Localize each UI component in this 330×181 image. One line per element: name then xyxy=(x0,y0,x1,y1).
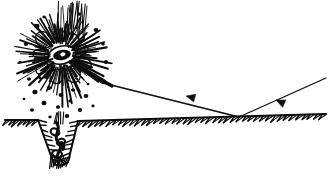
crater-hatch xyxy=(40,125,46,126)
debris-dot xyxy=(78,108,82,112)
debris-dot xyxy=(32,90,37,95)
debris-dot xyxy=(42,16,45,19)
debris-dot xyxy=(30,108,34,112)
impact-explosion-illustration xyxy=(0,0,330,181)
debris-dot xyxy=(68,99,72,102)
debris-dot xyxy=(101,42,105,45)
debris-dot xyxy=(42,101,47,105)
debris-dot xyxy=(104,60,108,64)
debris-dot xyxy=(56,105,60,109)
debris-dot xyxy=(24,42,28,46)
debris-dot xyxy=(71,88,75,92)
debris-dot xyxy=(84,94,89,98)
debris-dot xyxy=(34,24,39,29)
debris-dot xyxy=(87,83,90,86)
debris-dot xyxy=(91,105,94,108)
debris-dot xyxy=(48,116,51,119)
debris-dot xyxy=(19,61,22,64)
figure-canvas xyxy=(0,0,330,181)
explosion-ray xyxy=(29,56,45,57)
debris-dot xyxy=(27,77,31,81)
debris-dot xyxy=(47,86,51,90)
debris-dot xyxy=(77,12,81,16)
crater-hatch xyxy=(45,140,52,141)
debris-dot xyxy=(94,28,99,32)
debris-dot xyxy=(65,114,70,118)
debris-dot xyxy=(38,77,41,80)
explosion-spike xyxy=(58,1,59,39)
debris-dot xyxy=(23,98,26,100)
debris-dot xyxy=(59,93,64,97)
